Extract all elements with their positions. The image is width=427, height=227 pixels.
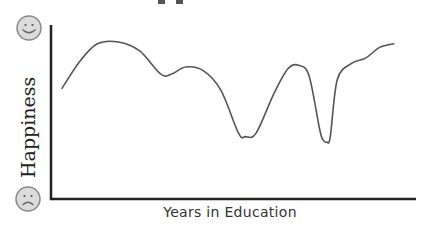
x-axis-label: Years in Education — [130, 204, 330, 220]
happiness-curve — [62, 41, 394, 143]
plot-area — [0, 0, 427, 227]
